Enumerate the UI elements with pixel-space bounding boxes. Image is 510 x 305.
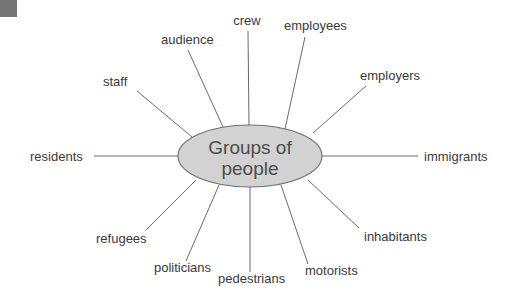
node-label-pedestrians[interactable]: pedestrians bbox=[218, 271, 286, 286]
node-label-employers[interactable]: employers bbox=[360, 68, 420, 83]
spoke-line-refugees bbox=[146, 180, 196, 230]
spoke-line-motorists bbox=[281, 185, 308, 264]
spider-diagram-canvas: Groups of people crewemployeesaudienceem… bbox=[0, 0, 510, 305]
node-label-employees[interactable]: employees bbox=[284, 18, 347, 33]
center-node-label-line-2: people bbox=[221, 158, 278, 179]
node-label-motorists[interactable]: motorists bbox=[305, 263, 358, 278]
spoke-line-inhabitants bbox=[308, 180, 359, 228]
hub-group[interactable]: Groups of people bbox=[178, 125, 322, 187]
spoke-line-staff bbox=[137, 91, 192, 137]
node-label-audience[interactable]: audience bbox=[161, 32, 214, 47]
spider-diagram: Groups of people crewemployeesaudienceem… bbox=[0, 0, 510, 305]
node-label-inhabitants[interactable]: inhabitants bbox=[364, 229, 427, 244]
node-label-politicians[interactable]: politicians bbox=[154, 260, 212, 275]
node-label-staff[interactable]: staff bbox=[103, 74, 128, 89]
spoke-line-crew bbox=[248, 31, 249, 125]
spoke-line-audience bbox=[188, 50, 223, 127]
node-label-refugees[interactable]: refugees bbox=[96, 231, 147, 246]
center-node-label-line-1: Groups of bbox=[208, 137, 292, 158]
spoke-line-employers bbox=[313, 86, 366, 133]
node-label-crew[interactable]: crew bbox=[233, 13, 261, 28]
node-label-immigrants[interactable]: immigrants bbox=[424, 149, 488, 164]
spoke-line-politicians bbox=[186, 185, 219, 261]
spoke-line-employees bbox=[285, 37, 305, 129]
node-label-residents[interactable]: residents bbox=[30, 149, 83, 164]
